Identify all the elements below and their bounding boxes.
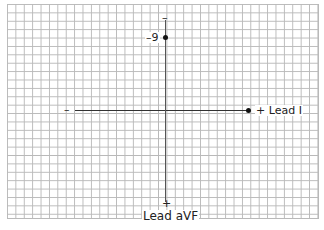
lead-avf-value-label: –9 [145, 32, 160, 43]
lead-i-negative-sign: – [64, 104, 70, 115]
lead-avf-negative-sign: – [162, 12, 168, 23]
lead-avf-axis [165, 20, 166, 202]
lead-i-point [246, 108, 251, 113]
lead-avf-label: Lead aVF [142, 210, 199, 222]
lead-i-axis [75, 110, 248, 111]
lead-avf-positive-sign: + [162, 198, 171, 209]
lead-i-label: + Lead I [255, 105, 303, 116]
lead-avf-point [163, 35, 168, 40]
